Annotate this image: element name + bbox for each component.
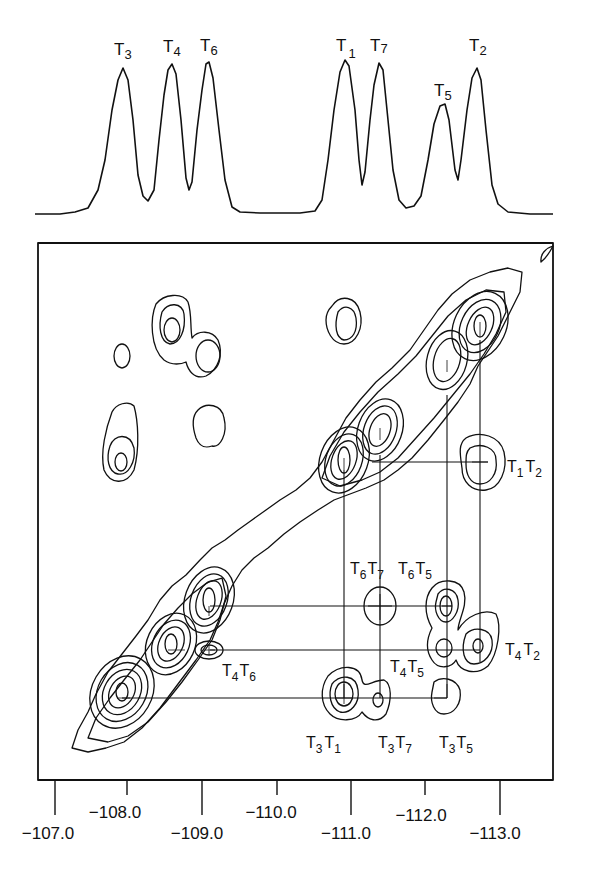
label-T3T5: T3T5 bbox=[439, 734, 473, 756]
spectrum-1d-trace bbox=[35, 60, 553, 214]
label-T3T1: T3T1 bbox=[306, 734, 341, 756]
tick-label-112: −112.0 bbox=[395, 806, 446, 825]
peak-label-T1: T1 bbox=[336, 36, 356, 61]
label-T3T7: T3T7 bbox=[378, 734, 412, 756]
label-T6T7: T6T7 bbox=[350, 560, 384, 582]
peak-label-T5: T5 bbox=[434, 81, 452, 103]
peak-label-T2: T2 bbox=[469, 36, 487, 58]
label-T4T6: T4T6 bbox=[222, 662, 256, 684]
plot-frame bbox=[38, 243, 553, 780]
peak-label-T3: T3 bbox=[114, 40, 132, 62]
diagonal-peak-T6 bbox=[175, 560, 243, 640]
tick-label-108: −108.0 bbox=[89, 803, 141, 822]
cross-peak-T3T5-contour bbox=[432, 679, 461, 714]
peak-label-T6: T6 bbox=[200, 36, 218, 58]
corner-contour bbox=[541, 246, 553, 262]
label-T4T2: T4T2 bbox=[505, 641, 540, 663]
cross-peak-T6T5-T4T5-T4T2-contour bbox=[426, 581, 499, 672]
label-T4T5: T4T5 bbox=[390, 658, 424, 680]
peak-labels: T3 T4 T6 T1 T7 T5 T2 bbox=[114, 36, 487, 103]
label-T6T5: T6T5 bbox=[398, 560, 432, 582]
nmr-figure: T3 T4 T6 T1 T7 T5 T2 T1T2 T6T7 T6T5 T4T2… bbox=[0, 0, 589, 871]
diagonal-contours bbox=[72, 268, 522, 752]
peak-label-T7: T7 bbox=[370, 36, 388, 56]
tick-label-110: −110.0 bbox=[245, 803, 296, 822]
tick-label-111: −111.0 bbox=[321, 824, 371, 843]
tick-label-109: −109.0 bbox=[171, 824, 223, 843]
upper-cross-peaks bbox=[103, 295, 361, 481]
tick-label-107: −107.0 bbox=[22, 824, 74, 843]
peak-label-T4: T4 bbox=[163, 37, 181, 59]
label-T1T2: T1T2 bbox=[507, 458, 542, 480]
cross-peak-labels: T1T2 T6T7 T6T5 T4T2 T4T5 T4T6 T3T1 T3T7 … bbox=[222, 458, 542, 756]
tick-label-113: −113.0 bbox=[469, 824, 520, 843]
x-tick-labels: −107.0 −108.0 −109.0 −110.0 −111.0 −112.… bbox=[22, 803, 521, 843]
